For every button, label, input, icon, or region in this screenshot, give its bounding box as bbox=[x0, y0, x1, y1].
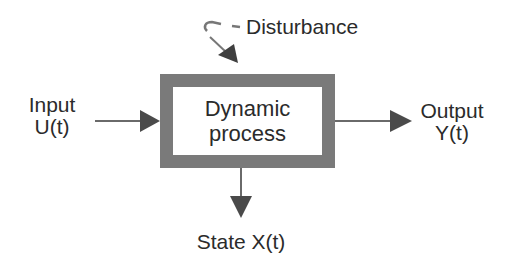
block-diagram: Disturbance Dynamic process Input U(t) O… bbox=[0, 0, 517, 266]
input-label-line2: U(t) bbox=[16, 116, 88, 138]
output-arrow bbox=[335, 110, 412, 132]
block-label-line1: Dynamic bbox=[205, 96, 291, 121]
disturbance-arrow bbox=[205, 22, 240, 63]
disturbance-label: Disturbance bbox=[246, 16, 358, 38]
output-label-line1: Output bbox=[412, 100, 492, 122]
output-label-line2: Y(t) bbox=[412, 122, 492, 144]
output-label: Output Y(t) bbox=[412, 100, 492, 144]
input-label-line1: Input bbox=[16, 94, 88, 116]
block-label-line2: process bbox=[209, 121, 286, 146]
state-arrow bbox=[230, 168, 252, 218]
state-label: State X(t) bbox=[181, 231, 301, 253]
input-label: Input U(t) bbox=[16, 94, 88, 138]
input-arrow bbox=[95, 110, 160, 132]
dynamic-process-block: Dynamic process bbox=[160, 74, 335, 168]
